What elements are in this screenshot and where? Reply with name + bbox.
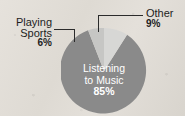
leader-line-playing-sports-vertical [74,29,75,42]
slice-label-other-line1: Other [146,8,174,19]
slice-label-other: Other 9% [146,8,174,29]
leader-line-playing-sports-horizontal [54,29,75,30]
slice-value-playing-sports: 6% [6,38,52,49]
slice-label-listening-to-music: Listening to Music 85% [65,63,143,98]
pie-chart-figure: Playing Sports 6% Other 9% Listening to … [0,0,185,116]
slice-value-listening-to-music: 85% [65,86,143,98]
slice-label-playing-sports-line1: Playing [6,17,52,28]
leader-line-other-horizontal [98,15,143,16]
slice-label-listening-to-music-line1: Listening [65,63,143,75]
slice-value-other: 9% [146,19,174,30]
leader-line-other-vertical [98,15,99,32]
slice-label-playing-sports: Playing Sports 6% [6,17,52,49]
